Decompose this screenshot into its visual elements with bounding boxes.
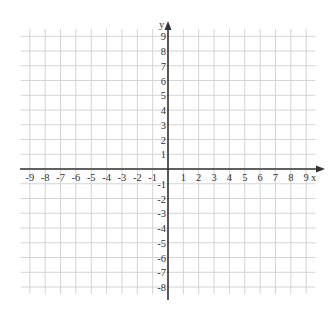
x-tick-label: -3 [118,172,127,183]
x-tick-label: 8 [288,172,293,183]
axes [20,21,325,300]
y-tick-label: 9 [161,31,166,42]
x-tick-label: 5 [242,172,247,183]
y-axis-label: y [159,19,165,30]
y-tick-label: 1 [161,149,166,160]
x-tick-label: 2 [196,172,201,183]
y-tick-label: -7 [157,267,166,278]
x-tick-label: -6 [72,172,81,183]
y-tick-label: 4 [161,105,167,116]
x-tick-label: -9 [25,172,34,183]
y-tick-labels: 987654321-1-2-3-4-5-6-7-8 [157,31,167,293]
y-tick-label: -4 [157,223,166,234]
x-tick-label: -7 [56,172,65,183]
x-tick-label: 6 [257,172,262,183]
y-tick-label: 5 [161,90,166,101]
x-tick-label: 9 [304,172,309,183]
y-tick-label: -2 [157,194,166,205]
y-tick-label: 7 [161,61,166,72]
y-tick-label: -1 [157,179,166,190]
x-tick-label: -2 [133,172,142,183]
x-tick-label: -1 [148,172,157,183]
y-tick-label: 3 [161,120,166,131]
x-tick-label: 3 [211,172,216,183]
x-axis-arrow-icon [316,166,325,173]
y-tick-label: 2 [161,135,166,146]
y-tick-label: -8 [157,282,166,293]
x-tick-label: -4 [102,172,111,183]
y-tick-label: -3 [157,208,166,219]
y-tick-label: 8 [161,46,166,57]
x-tick-label: -5 [87,172,96,183]
coordinate-plane: -9-8-7-6-5-4-3-2-1123456789 987654321-1-… [0,0,332,317]
y-axis-arrow-icon [165,21,172,30]
x-tick-labels: -9-8-7-6-5-4-3-2-1123456789 [25,172,308,183]
x-tick-label: 7 [273,172,278,183]
x-tick-label: -8 [41,172,50,183]
x-axis-label: x [311,172,317,183]
x-tick-label: 4 [227,172,233,183]
y-tick-label: -6 [157,253,166,264]
y-tick-label: 6 [161,76,166,87]
x-tick-label: 1 [181,172,186,183]
y-tick-label: -5 [157,238,166,249]
